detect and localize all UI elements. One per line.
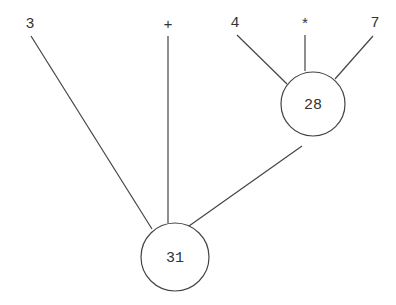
leaf-label-4: 4 [230,15,239,32]
diagram-svg: 3 + 4 * 7 28 31 [0,0,396,305]
leaf-label-plus: + [163,17,172,34]
leaf-label-3: 3 [25,16,34,33]
node-label-31: 31 [166,250,184,267]
edge-7-to-28 [335,36,373,79]
expression-tree-diagram: 3 + 4 * 7 28 31 [0,0,396,305]
node-label-28: 28 [304,97,322,114]
edge-3-to-31 [31,36,152,229]
edge-28-to-31 [189,146,302,226]
edge-4-to-28 [237,35,287,84]
leaf-label-7: 7 [370,15,379,32]
leaf-label-times: * [300,17,309,34]
